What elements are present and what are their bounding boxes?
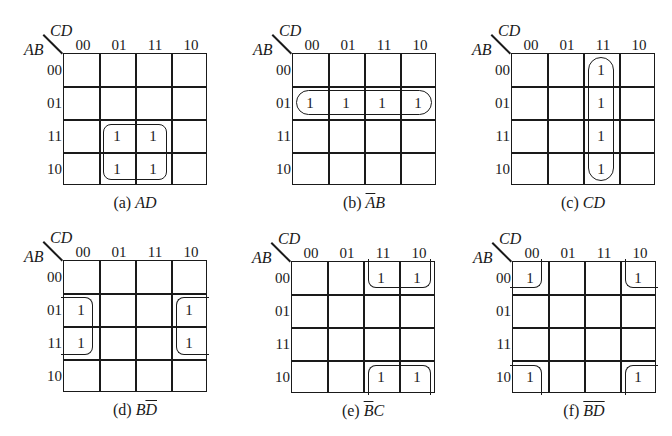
grid-line-horizontal xyxy=(512,119,654,121)
column-label: 01 xyxy=(330,38,366,53)
kmap-caption: (f) BD xyxy=(504,403,664,419)
row-label: 11 xyxy=(40,129,62,144)
row-label: 00 xyxy=(488,63,510,78)
grid-line-horizontal xyxy=(293,152,435,154)
column-label: 11 xyxy=(137,38,173,53)
row-variable-label: AB xyxy=(24,249,44,265)
caption-label: (b) xyxy=(343,194,366,211)
column-label: 00 xyxy=(65,38,101,53)
grid-line-horizontal xyxy=(513,327,655,329)
caption-term-variable: B xyxy=(375,194,385,211)
grouping-loop xyxy=(368,259,431,288)
row-variable-label: AB xyxy=(473,250,493,266)
column-label: 00 xyxy=(294,38,330,53)
row-label: 11 xyxy=(488,129,510,144)
row-label: 01 xyxy=(40,303,62,318)
caption-term-variable: D xyxy=(145,194,157,211)
caption-term-variable: B xyxy=(364,402,374,419)
caption-term-variable: D xyxy=(145,401,157,418)
column-label: 10 xyxy=(173,38,209,53)
caption-label: (c) xyxy=(561,194,583,211)
row-label: 11 xyxy=(268,337,290,352)
row-variable-label: AB xyxy=(24,42,44,58)
row-label: 01 xyxy=(489,304,511,319)
grouping-loop xyxy=(588,57,614,181)
column-label: 01 xyxy=(329,246,365,261)
row-label: 10 xyxy=(489,370,511,385)
row-label: 01 xyxy=(488,96,510,111)
grid-line-horizontal xyxy=(292,360,434,362)
row-label: 00 xyxy=(268,271,290,286)
column-variable-label: CD xyxy=(50,23,72,39)
kmap-caption: (d) BD xyxy=(55,402,215,418)
grid-line-horizontal xyxy=(513,360,655,362)
caption-label: (a) xyxy=(113,194,135,211)
column-label: 01 xyxy=(550,246,586,261)
grouping-loop xyxy=(296,90,432,115)
grid-line-horizontal xyxy=(64,119,206,121)
grouping-loop xyxy=(510,365,542,395)
row-label: 10 xyxy=(40,369,62,384)
caption-term-variable: D xyxy=(593,402,605,419)
row-label: 11 xyxy=(40,336,62,351)
row-label: 00 xyxy=(489,271,511,286)
row-label: 11 xyxy=(489,337,511,352)
grouping-loop xyxy=(625,365,658,395)
kmap-grid xyxy=(292,53,436,185)
caption-term-variable: B xyxy=(583,402,593,419)
caption-term-variable: C xyxy=(583,194,594,211)
row-label: 10 xyxy=(269,162,291,177)
column-label: 01 xyxy=(549,38,585,53)
caption-label: (e) xyxy=(342,402,364,419)
column-variable-label: CD xyxy=(498,23,520,39)
grouping-loop xyxy=(103,124,167,180)
kmap-caption: (e) BC xyxy=(283,403,443,419)
grouping-loop xyxy=(61,297,93,355)
grid-line-horizontal xyxy=(64,359,206,361)
grid-line-horizontal xyxy=(512,152,654,154)
caption-term-variable: A xyxy=(135,194,145,211)
column-variable-label: CD xyxy=(279,23,301,39)
column-label: 11 xyxy=(586,246,622,261)
column-label: 00 xyxy=(513,38,549,53)
column-label: 11 xyxy=(366,38,402,53)
row-variable-label: AB xyxy=(252,250,272,266)
row-variable-label: AB xyxy=(253,42,273,58)
caption-term-variable: B xyxy=(136,401,146,418)
column-label: 10 xyxy=(173,245,209,260)
grouping-loop xyxy=(510,259,542,288)
row-label: 00 xyxy=(40,270,62,285)
column-variable-label: CD xyxy=(278,231,300,247)
caption-term-variable: A xyxy=(366,194,376,211)
row-label: 10 xyxy=(488,162,510,177)
column-label: 01 xyxy=(101,245,137,260)
column-label: 10 xyxy=(402,38,438,53)
row-label: 10 xyxy=(268,370,290,385)
kmap-caption: (b) AB xyxy=(284,195,444,211)
column-label: 10 xyxy=(621,38,657,53)
kmap-caption: (a) AD xyxy=(55,195,215,211)
row-variable-label: AB xyxy=(472,42,492,58)
column-label: 00 xyxy=(293,246,329,261)
row-label: 00 xyxy=(40,63,62,78)
grid-line-vertical xyxy=(400,54,402,184)
caption-term-variable: D xyxy=(593,194,605,211)
row-label: 01 xyxy=(269,96,291,111)
grid-line-horizontal xyxy=(292,327,434,329)
caption-term-variable: C xyxy=(373,402,384,419)
grid-line-vertical xyxy=(171,54,173,184)
row-label: 00 xyxy=(269,63,291,78)
column-label: 11 xyxy=(585,38,621,53)
grid-line-horizontal xyxy=(293,119,435,121)
grouping-loop xyxy=(625,259,658,288)
column-variable-label: CD xyxy=(499,231,521,247)
grouping-loop xyxy=(176,297,209,355)
row-label: 10 xyxy=(40,162,62,177)
row-label: 01 xyxy=(268,304,290,319)
grouping-loop xyxy=(368,365,431,395)
caption-label: (d) xyxy=(113,401,136,418)
caption-label: (f) xyxy=(563,402,583,419)
row-label: 11 xyxy=(269,129,291,144)
grid-line-vertical xyxy=(171,261,173,391)
column-label: 01 xyxy=(101,38,137,53)
